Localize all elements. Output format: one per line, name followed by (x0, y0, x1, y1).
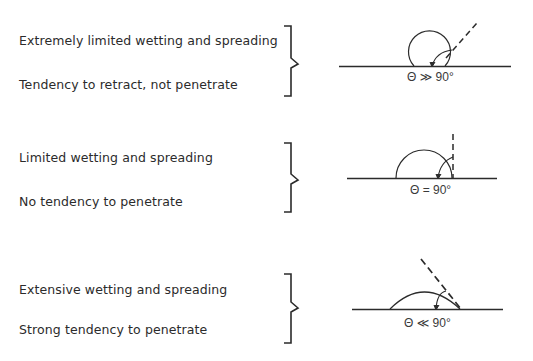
angle-label-high: Θ ≫ 90° (407, 70, 454, 84)
drop-diagram-high-angle (339, 23, 511, 67)
droplet-outline (409, 31, 451, 66)
angle-arc (432, 50, 452, 66)
angle-label-low: Θ ≪ 90° (404, 316, 451, 330)
drop-diagram-right-angle (347, 134, 497, 179)
brace-icon (284, 143, 298, 212)
brace-icon (284, 274, 298, 343)
drop-diagram-low-angle (352, 259, 503, 310)
brace-icon (284, 26, 298, 96)
tangent-dashed-line (421, 259, 461, 309)
angle-label-right: Θ = 90° (410, 183, 451, 197)
wetting-diagram (0, 0, 533, 361)
